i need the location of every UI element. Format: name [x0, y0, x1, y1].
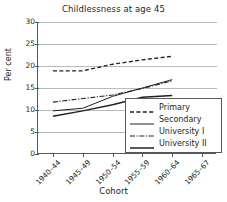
legend-label: Primary [159, 103, 190, 112]
x-tick-label: 1950–54 [93, 158, 122, 187]
legend-swatch [129, 102, 155, 112]
x-axis-label: Cohort [0, 186, 227, 196]
y-axis-label: Per cent [4, 33, 13, 97]
chart-container: Childlessness at age 45 Per cent 0510152… [0, 0, 227, 202]
legend-label: Secondary [159, 115, 201, 124]
x-tick-label: 1955–59 [123, 158, 152, 187]
x-tick-label: 1960–64 [153, 158, 182, 187]
legend-item[interactable]: University II [129, 137, 218, 149]
legend-item[interactable]: Primary [129, 101, 218, 113]
legend-swatch [129, 114, 155, 124]
x-tick-label: 1965–67 [183, 158, 212, 187]
series-line [53, 56, 172, 71]
legend-label: University II [159, 139, 207, 148]
chart-legend: PrimarySecondaryUniversity IUniversity I… [125, 98, 222, 153]
x-tick-label: 1940–44 [34, 158, 63, 187]
chart-title: Childlessness at age 45 [0, 4, 227, 14]
legend-item[interactable]: Secondary [129, 113, 218, 125]
y-tick-label: 15 [25, 84, 35, 92]
legend-swatch [129, 126, 155, 136]
x-tick-label: 1945–49 [63, 158, 92, 187]
y-tick-label: 30 [25, 18, 35, 26]
y-tick-label: 10 [25, 106, 35, 114]
legend-item[interactable]: University I [129, 125, 218, 137]
legend-label: University I [159, 127, 204, 136]
y-tick-mark [35, 154, 39, 155]
y-tick-label: 20 [25, 62, 35, 70]
legend-swatch [129, 138, 155, 148]
y-tick-label: 25 [25, 40, 35, 48]
